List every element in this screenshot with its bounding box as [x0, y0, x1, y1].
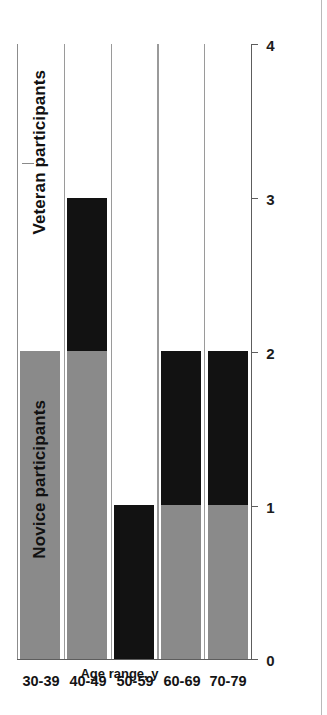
- bar-segment-black: [208, 352, 248, 506]
- group-label-novice: Novice participants: [30, 400, 50, 559]
- plot-area: [17, 44, 251, 660]
- category-label-30-39: 30-39: [19, 673, 63, 689]
- stacked-bar[interactable]: [161, 352, 201, 660]
- bar-segment-black: [114, 505, 154, 659]
- value-axis-tick-label: 3: [251, 191, 291, 208]
- bar-band-60-69: [157, 44, 204, 659]
- group-label-veteran: Veteran participants: [30, 70, 50, 235]
- group-bracket-tick: [22, 163, 34, 164]
- group-bracket-tick: [22, 402, 34, 403]
- bar-segment-gray: [208, 505, 248, 659]
- group-bracket-tick: [22, 521, 34, 522]
- bar-band-50-59: [111, 44, 158, 659]
- category-axis-title: Age range, y: [60, 666, 180, 681]
- value-axis-tick-label: 4: [251, 37, 291, 54]
- stacked-bar[interactable]: [67, 198, 107, 659]
- stacked-bar[interactable]: [208, 352, 248, 660]
- stacked-bar[interactable]: [114, 505, 154, 659]
- bar-segment-black: [161, 352, 201, 506]
- bar-segment-gray: [161, 505, 201, 659]
- bar-segment-black: [67, 198, 107, 352]
- bar-band-70-79: [204, 44, 251, 659]
- category-label-70-79: 70-79: [206, 673, 250, 689]
- value-axis-tick-label: 2: [251, 345, 291, 362]
- value-axis-tick-label: 0: [251, 652, 291, 669]
- value-axis-tick-label: 1: [251, 499, 291, 516]
- bar-band-40-49: [64, 44, 111, 659]
- bar-segment-gray: [67, 352, 107, 660]
- chart-figure: 0 1 2 3 4 30-39 40-49 50-59 60-69 70-79 …: [0, 0, 327, 715]
